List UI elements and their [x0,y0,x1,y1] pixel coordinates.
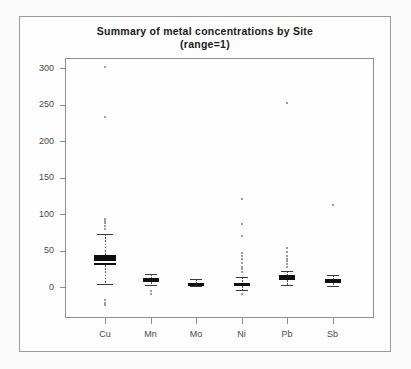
outlier-point [241,293,243,295]
outlier-point [241,266,243,268]
cap-lower [236,290,248,291]
cap-upper [190,279,202,280]
y-tick-mark [60,214,65,215]
outlier-point [286,251,288,253]
whisker-lower [105,265,106,284]
x-tick-mark [196,318,197,324]
x-tick-mark [242,318,243,324]
y-tick-mark [60,251,65,252]
cap-upper [281,271,293,272]
median-line [188,283,204,285]
y-tick-mark [60,68,65,69]
median-line [143,279,159,281]
median-line [94,261,116,263]
cap-lower [145,285,157,286]
outlier-point [150,293,152,295]
median-line [279,277,295,279]
y-tick-label: 100 [20,210,54,219]
cap-lower [327,286,339,287]
outlier-point [241,258,243,260]
cap-upper [236,277,248,278]
x-tick-label: Cu [85,330,125,339]
x-tick-label: Mn [131,330,171,339]
x-tick-label: Sb [313,330,353,339]
y-tick-label: 50 [20,246,54,255]
y-tick-label: 200 [20,137,54,146]
outlier-point [286,102,288,104]
x-tick-mark [151,318,152,324]
outlier-point [332,204,334,206]
x-tick-mark [287,318,288,324]
outlier-point [241,223,243,225]
chart-subtitle: (range=1) [19,38,391,51]
median-line [234,284,250,286]
y-tick-mark [60,105,65,106]
outlier-point [241,252,243,254]
x-tick-label: Mo [176,330,216,339]
outlier-point [286,258,288,260]
y-tick-mark [60,178,65,179]
y-tick-mark [60,287,65,288]
median-line [325,281,341,283]
cap-lower [190,286,202,287]
page-title: Summary of metal concentrations by Site [19,25,391,38]
chart-title-block: Summary of metal concentrations by Site … [19,25,391,51]
cap-lower [97,284,113,285]
y-tick-label: 250 [20,100,54,109]
outlier-point [104,228,106,230]
y-tick-label: 150 [20,173,54,182]
whisker-upper [105,234,106,254]
x-tick-mark [105,318,106,324]
x-tick-label: Ni [222,330,262,339]
cap-upper [145,274,157,275]
x-tick-mark [333,318,334,324]
outlier-point [104,116,106,118]
cap-upper [327,275,339,276]
outlier-point [286,255,288,257]
cap-upper [97,234,113,235]
cap-lower [281,285,293,286]
y-tick-label: 0 [20,283,54,292]
y-tick-mark [60,141,65,142]
x-tick-label: Pb [267,330,307,339]
outlier-point [241,235,243,237]
figure-canvas: Summary of metal concentrations by Site … [0,0,411,369]
outlier-point [241,262,243,264]
y-tick-label: 300 [20,64,54,73]
